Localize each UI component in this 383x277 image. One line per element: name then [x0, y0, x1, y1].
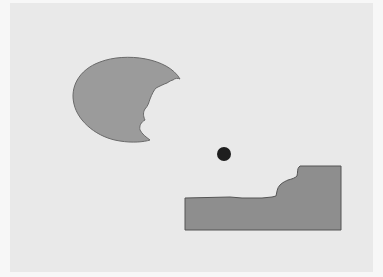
diagram-canvas	[0, 0, 383, 277]
black-dot	[217, 147, 231, 161]
bitten-rectangle-shape	[185, 166, 341, 230]
bitten-ellipse-shape	[73, 57, 180, 142]
